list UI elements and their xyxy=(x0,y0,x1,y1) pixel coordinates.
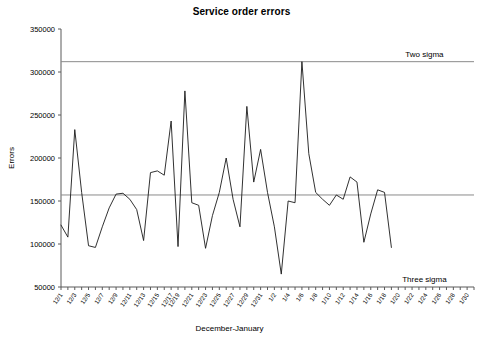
x-tick-label: 12/29 xyxy=(235,291,250,308)
x-tick-label: 12/9 xyxy=(106,291,119,305)
x-tick-label: 12/27 xyxy=(221,291,236,308)
x-tick-label: 12/15 xyxy=(146,291,161,308)
x-tick-label: 1/24 xyxy=(416,291,429,305)
y-tick-label: 50000 xyxy=(34,283,55,292)
x-tick-label: 1/12 xyxy=(333,291,346,305)
x-tick-label: 12/3 xyxy=(65,291,78,305)
reference-line-label: Three sigma xyxy=(402,275,447,284)
x-tick-label: 1/4 xyxy=(280,291,291,303)
y-tick-label: 300000 xyxy=(30,68,55,77)
y-tick-label: 150000 xyxy=(30,197,55,206)
x-tick-label: 12/23 xyxy=(194,291,209,308)
x-tick-label: 12/11 xyxy=(118,291,133,308)
line-chart-svg: 5000010000015000020000025000030000035000… xyxy=(0,0,483,343)
x-tick-label: 1/22 xyxy=(402,291,415,305)
y-tick-label: 200000 xyxy=(30,154,55,163)
x-tick-label: 1/18 xyxy=(375,291,388,305)
x-tick-label: 1/14 xyxy=(347,291,360,305)
reference-line-label: Two sigma xyxy=(405,50,444,59)
x-tick-label: 12/1 xyxy=(51,291,64,305)
x-tick-label: 12/13 xyxy=(132,291,147,308)
x-tick-label: 1/30 xyxy=(457,291,470,305)
data-series-line xyxy=(61,62,391,274)
x-tick-label: 1/10 xyxy=(320,291,333,305)
x-tick-label: 1/8 xyxy=(308,291,319,303)
x-tick-label: 1/26 xyxy=(430,291,443,305)
x-tick-label: 12/7 xyxy=(92,291,105,305)
x-tick-label: 12/5 xyxy=(79,291,92,305)
y-axis-title: Errors xyxy=(7,147,16,169)
y-tick-label: 100000 xyxy=(30,240,55,249)
x-tick-label: 1/2 xyxy=(267,291,278,303)
x-tick-label: 1/20 xyxy=(388,291,401,305)
x-tick-label: 12/25 xyxy=(208,291,223,308)
y-tick-label: 250000 xyxy=(30,111,55,120)
x-tick-label: 1/16 xyxy=(361,291,374,305)
x-tick-label: 1/28 xyxy=(444,291,457,305)
chart-container: Service order errors 5000010000015000020… xyxy=(0,0,483,343)
x-axis-title: December-January xyxy=(195,324,263,333)
x-tick-label: 12/31 xyxy=(249,291,264,308)
x-tick-label: 1/6 xyxy=(294,291,305,303)
x-tick-label: 12/21 xyxy=(180,291,195,308)
y-tick-label: 350000 xyxy=(30,25,55,34)
